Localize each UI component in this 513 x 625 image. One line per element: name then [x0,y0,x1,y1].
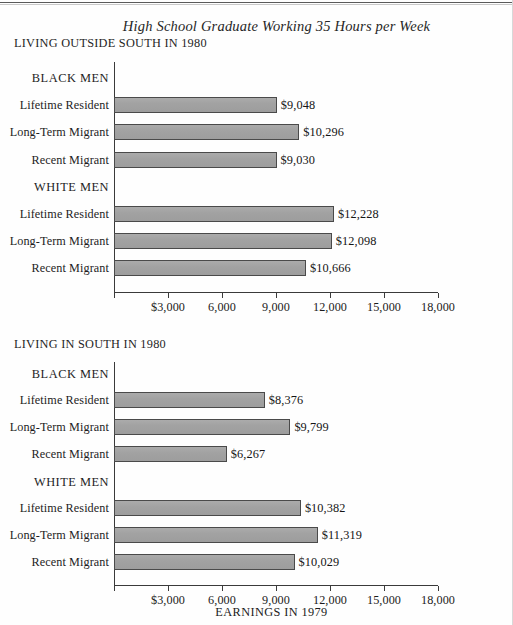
x-axis-tick-label: 15,000 [367,300,401,315]
chart-bar-row: Long-Term Migrant$12,098 [0,229,513,253]
category-label-lifetime-resident: Lifetime Resident [20,207,114,222]
figure-page: High School Graduate Working 35 Hours pe… [0,0,513,625]
category-label-long-term-migrant: Long-Term Migrant [10,234,114,249]
x-axis-tick [384,586,385,591]
x-axis-tick [222,293,223,298]
page-scan-edge-top-secondary [0,4,513,5]
bar [114,527,318,543]
panel-title-outside-south: LIVING OUTSIDE SOUTH IN 1980 [14,36,207,51]
x-axis-tick-label: 12,000 [313,300,347,315]
panel-title-in-south: LIVING IN SOUTH IN 1980 [14,337,166,352]
x-axis-tick-label: 18,000 [421,300,455,315]
chart-bar-row: Lifetime Resident$10,382 [0,496,513,520]
x-axis-tick-label: $3,000 [151,300,185,315]
bar [114,392,265,408]
chart-bar-row: Long-Term Migrant$9,799 [0,415,513,439]
category-label-lifetime-resident: Lifetime Resident [20,501,114,516]
x-axis-tick [276,293,277,298]
bar [114,206,334,222]
chart-bar-row: Recent Migrant$6,267 [0,442,513,466]
chart-group-header-row: WHITE MEN [0,470,513,494]
bar [114,124,299,140]
bar-value-label: $6,267 [231,447,265,462]
bar-value-label: $10,382 [305,501,346,516]
category-label-recent-migrant: Recent Migrant [31,153,114,168]
group-label-black-men: BLACK MEN [32,71,114,86]
category-label-recent-migrant: Recent Migrant [31,261,114,276]
x-axis-tick [168,293,169,298]
bar-value-label: $9,030 [281,153,315,168]
bar [114,419,290,435]
x-axis-tick-label: 6,000 [208,300,236,315]
category-label-lifetime-resident: Lifetime Resident [20,98,114,113]
chart-group-header-row: WHITE MEN [0,175,513,199]
bar-value-label: $9,048 [281,98,315,113]
x-axis-tick [438,293,439,298]
chart-group-header-row: BLACK MEN [0,66,513,90]
x-axis-tick-label: 9,000 [262,300,290,315]
chart-bar-row: Recent Migrant$9,030 [0,148,513,172]
group-label-black-men: BLACK MEN [32,367,114,382]
x-axis-origin-tick [114,586,115,591]
bar-value-label: $8,376 [269,393,303,408]
group-label-white-men: WHITE MEN [34,475,114,490]
bar [114,233,332,249]
x-axis-origin-tick [114,293,115,298]
bar [114,446,227,462]
chart-bar-row: Recent Migrant$10,029 [0,550,513,574]
x-axis-tick [330,293,331,298]
chart-bar-row: Lifetime Resident$8,376 [0,388,513,412]
group-label-white-men: WHITE MEN [34,180,114,195]
x-axis-tick [330,586,331,591]
x-axis-tick [384,293,385,298]
bar-value-label: $11,319 [322,528,362,543]
x-axis-tick [168,586,169,591]
chart-bar-row: Lifetime Resident$9,048 [0,93,513,117]
figure-title: High School Graduate Working 35 Hours pe… [0,18,513,35]
page-scan-edge-top [0,2,513,3]
x-axis-tick [222,586,223,591]
bar [114,97,277,113]
chart-bar-row: Recent Migrant$10,666 [0,256,513,280]
bar-value-label: $9,799 [294,420,328,435]
chart-group-header-row: BLACK MEN [0,362,513,386]
bar [114,260,306,276]
category-label-recent-migrant: Recent Migrant [31,555,114,570]
bar-value-label: $12,098 [336,234,377,249]
chart-bar-row: Lifetime Resident$12,228 [0,202,513,226]
bar [114,554,295,570]
bar-value-label: $10,296 [303,125,344,140]
bar [114,500,301,516]
x-axis-caption: EARNINGS IN 1979 [0,605,513,620]
bar-value-label: $12,228 [338,207,379,222]
category-label-recent-migrant: Recent Migrant [31,447,114,462]
category-label-lifetime-resident: Lifetime Resident [20,393,114,408]
chart-bar-row: Long-Term Migrant$10,296 [0,120,513,144]
bar-value-label: $10,666 [310,261,351,276]
x-axis-tick [438,586,439,591]
x-axis-tick [276,586,277,591]
category-label-long-term-migrant: Long-Term Migrant [10,420,114,435]
bar [114,152,277,168]
category-label-long-term-migrant: Long-Term Migrant [10,125,114,140]
category-label-long-term-migrant: Long-Term Migrant [10,528,114,543]
chart-bar-row: Long-Term Migrant$11,319 [0,523,513,547]
bar-value-label: $10,029 [299,555,340,570]
